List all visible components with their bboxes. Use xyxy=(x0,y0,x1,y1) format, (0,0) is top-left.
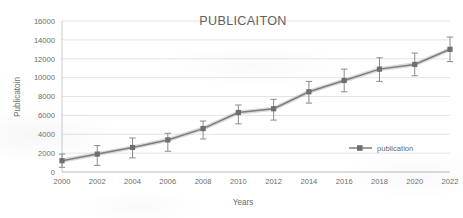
x-tick-label-2016: 2016 xyxy=(336,177,353,186)
x-tick-label-2008: 2008 xyxy=(195,177,212,186)
x-tick-label-2020: 2020 xyxy=(406,177,423,186)
data-point-2022 xyxy=(447,47,452,52)
data-point-2020 xyxy=(412,62,417,67)
legend[interactable]: publication xyxy=(349,144,413,153)
data-point-2010 xyxy=(236,110,241,115)
legend-marker-swatch xyxy=(357,145,363,151)
y-axis-tick-labels: 0200040006000800010000120001400016000 xyxy=(34,17,55,177)
legend-label-publication: publication xyxy=(377,144,413,153)
y-tick-label-2000: 2000 xyxy=(38,149,55,158)
y-tick-label-14000: 14000 xyxy=(34,36,55,45)
x-tick-label-2014: 2014 xyxy=(300,177,317,186)
y-tick-label-10000: 10000 xyxy=(34,73,55,82)
x-tick-label-2018: 2018 xyxy=(371,177,388,186)
x-tick-label-2002: 2002 xyxy=(89,177,106,186)
y-tick-label-0: 0 xyxy=(51,168,55,177)
x-axis-tick-labels: 2000200220042006200820102012201420162018… xyxy=(54,177,459,186)
y-tick-label-8000: 8000 xyxy=(38,92,55,101)
x-tick-label-2006: 2006 xyxy=(159,177,176,186)
data-point-2016 xyxy=(342,78,347,83)
data-point-2002 xyxy=(95,151,100,156)
data-point-2008 xyxy=(200,126,205,131)
data-point-2018 xyxy=(377,67,382,72)
data-point-2000 xyxy=(59,158,64,163)
x-tick-label-2010: 2010 xyxy=(230,177,247,186)
publication-line-chart: 0200040006000800010000120001400016000 20… xyxy=(0,0,463,218)
data-point-2012 xyxy=(271,106,276,111)
x-tick-label-2000: 2000 xyxy=(54,177,71,186)
data-point-2006 xyxy=(165,137,170,142)
x-tick-label-2012: 2012 xyxy=(265,177,282,186)
y-tick-label-16000: 16000 xyxy=(34,17,55,26)
data-point-2014 xyxy=(306,89,311,94)
y-tick-label-6000: 6000 xyxy=(38,111,55,120)
x-tick-label-2022: 2022 xyxy=(442,177,459,186)
data-point-2004 xyxy=(130,145,135,150)
y-tick-label-4000: 4000 xyxy=(38,130,55,139)
y-axis-title: Publicatoin xyxy=(13,77,22,118)
chart-title: PUBLICAITON xyxy=(199,14,287,28)
y-tick-label-12000: 12000 xyxy=(34,55,55,64)
chart-container: 0200040006000800010000120001400016000 20… xyxy=(0,0,463,218)
x-axis-title: Years xyxy=(233,198,254,207)
x-tick-label-2004: 2004 xyxy=(124,177,141,186)
